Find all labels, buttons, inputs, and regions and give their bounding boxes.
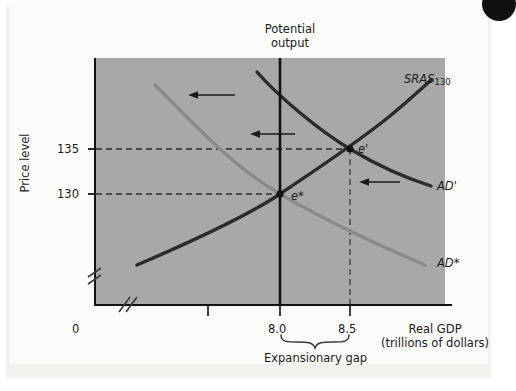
equilibrium-new-label: e' xyxy=(358,142,368,156)
x-tick-label-8-0: 8.0 xyxy=(268,322,286,336)
ad-new-curve-label: AD' xyxy=(437,179,457,193)
sras-curve-label-text: SRAS xyxy=(404,72,434,86)
x-tick-label-8-5: 8.5 xyxy=(338,322,356,336)
y-tick-label-130: 130 xyxy=(57,187,79,201)
x-axis-title-line2: (trillions of dollars) xyxy=(370,336,500,350)
y-tick-label-135: 135 xyxy=(57,142,79,156)
potential-output-line2: output xyxy=(245,36,335,50)
ad-initial-curve-label: AD* xyxy=(437,256,459,270)
x-axis-title-line1: Real GDP xyxy=(370,322,500,336)
expansionary-gap-label: Expansionary gap xyxy=(264,351,367,365)
marker-equilibrium-initial xyxy=(276,190,283,197)
sras-curve-label-subscript: 130 xyxy=(434,77,450,87)
y-axis-title: Price level xyxy=(18,121,32,205)
sras-curve-label: SRAS130 xyxy=(404,72,451,87)
potential-output-line1: Potential xyxy=(245,22,335,36)
x-axis-title: Real GDP (trillions of dollars) xyxy=(370,322,500,350)
equilibrium-initial-label: e* xyxy=(291,189,304,203)
marker-equilibrium-new xyxy=(346,145,353,152)
expansionary-gap-brace xyxy=(281,335,349,348)
origin-label: 0 xyxy=(72,322,79,336)
potential-output-label: Potential output xyxy=(245,22,335,50)
